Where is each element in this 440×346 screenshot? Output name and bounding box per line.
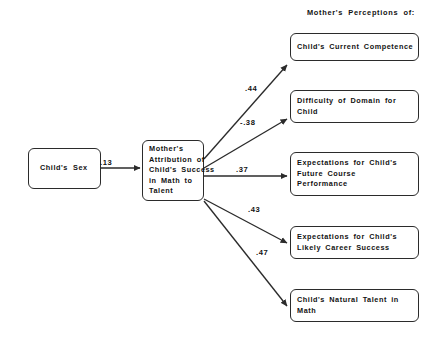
edge-label-sex-to-attribution: .13 bbox=[100, 158, 112, 167]
node-mothers-attribution[interactable]: Mother's Attribution of Child's Success … bbox=[142, 140, 204, 201]
edge-label-attribution-to-career-success: .43 bbox=[248, 205, 260, 214]
node-label-line: Child's Current Competence bbox=[297, 42, 413, 53]
node-childs-current-competence[interactable]: Child's Current Competence bbox=[290, 33, 419, 61]
node-difficulty-of-domain-for-child[interactable]: Difficulty of Domain for Child bbox=[290, 90, 419, 123]
node-label-line: Difficulty of Domain for bbox=[297, 96, 413, 107]
edge-attribution-to-natural-talent bbox=[204, 201, 287, 306]
node-label-line: Performance bbox=[297, 179, 413, 190]
node-label-line: Future Course bbox=[297, 169, 413, 180]
node-childs-sex[interactable]: Child's Sex bbox=[28, 148, 101, 189]
node-label-line: in Math to bbox=[149, 176, 198, 187]
node-label-line: Talent bbox=[149, 186, 198, 197]
edge-label-attribution-to-natural-talent: .47 bbox=[256, 248, 268, 257]
edge-attribution-to-competence bbox=[204, 65, 287, 159]
node-expectations-future-course-performance[interactable]: Expectations for Child's Future Course P… bbox=[290, 152, 419, 196]
node-label-line: Child's Natural Talent in bbox=[297, 295, 413, 306]
edge-label-attribution-to-competence: .44 bbox=[245, 84, 257, 93]
node-label-line: Likely Career Success bbox=[297, 243, 413, 254]
node-label-line: Math bbox=[297, 306, 413, 317]
edge-label-attribution-to-course-performance: .37 bbox=[236, 165, 248, 174]
node-label-line: Child's Sex bbox=[35, 163, 88, 174]
node-label-line: Expectations for Child's bbox=[297, 158, 413, 169]
node-label-line: Expectations for Child's bbox=[297, 232, 413, 243]
edge-attribution-to-career-success bbox=[204, 199, 287, 243]
node-expectations-likely-career-success[interactable]: Expectations for Child's Likely Career S… bbox=[290, 226, 419, 259]
edge-label-attribution-to-difficulty: -.38 bbox=[240, 118, 256, 127]
node-label-line: Child bbox=[297, 107, 413, 118]
node-label-line: Attribution of bbox=[149, 155, 198, 166]
path-diagram-canvas: Mother's Perceptions of: Child's Sex Mot… bbox=[0, 0, 440, 346]
node-label-line: Mother's bbox=[149, 144, 198, 155]
node-label-line: Child's Success bbox=[149, 165, 198, 176]
section-header-mothers-perceptions: Mother's Perceptions of: bbox=[307, 8, 415, 17]
node-childs-natural-talent-in-math[interactable]: Child's Natural Talent in Math bbox=[290, 289, 419, 322]
